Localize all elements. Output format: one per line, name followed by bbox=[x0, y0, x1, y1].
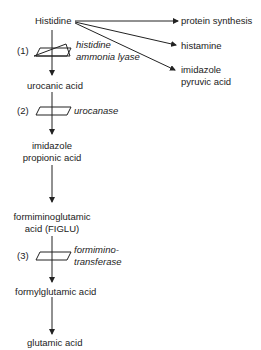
step-1-number: (1) bbox=[17, 45, 29, 56]
node-glutamic-acid: glutamic acid bbox=[27, 337, 82, 348]
node-figlu-2: acid (FIGLU) bbox=[2, 223, 102, 234]
node-formylglutamic-acid: formylglutamic acid bbox=[15, 286, 96, 297]
step-1-enzyme-2: ammonia lyase bbox=[76, 51, 140, 62]
node-imidazole-propionic-2: propionic acid bbox=[12, 152, 92, 163]
node-imidazole-pyruvic-1: imidazole bbox=[181, 64, 221, 75]
step-3-number: (3) bbox=[17, 250, 29, 261]
node-figlu-1: formiminoglutamic bbox=[2, 211, 102, 222]
step-3-enzyme-1: formimino- bbox=[74, 244, 119, 255]
histidine-pathway-diagram: Histidine protein synthesis histamine im… bbox=[0, 0, 261, 350]
node-imidazole-pyruvic-2: pyruvic acid bbox=[181, 76, 231, 87]
node-histidine: Histidine bbox=[35, 15, 71, 26]
step-3-enzyme-2: transferase bbox=[74, 256, 122, 267]
node-protein-synthesis: protein synthesis bbox=[181, 15, 252, 26]
step-1-enzyme-1: histidine bbox=[76, 39, 111, 50]
node-urocanic-acid: urocanic acid bbox=[27, 80, 83, 91]
node-histamine: histamine bbox=[181, 40, 222, 51]
step-2-enzyme: urocanase bbox=[74, 105, 118, 116]
node-imidazole-propionic-1: imidazole bbox=[12, 140, 92, 151]
step-2-number: (2) bbox=[17, 105, 29, 116]
